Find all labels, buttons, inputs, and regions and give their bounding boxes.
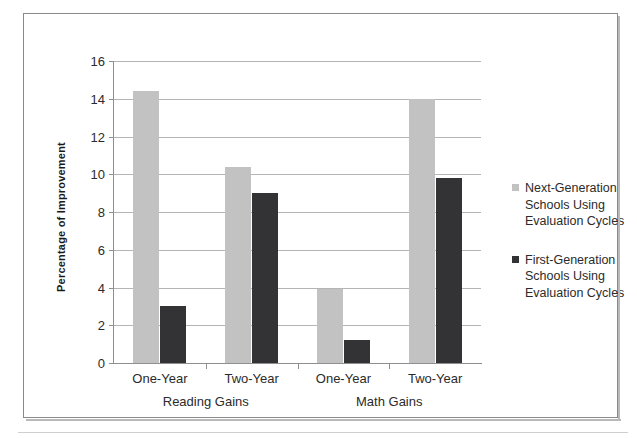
y-axis-title: Percentage of Improvement [50, 114, 72, 319]
page-divider-rule [18, 432, 628, 433]
chart-legend: Next-GenerationSchools UsingEvaluation C… [512, 180, 632, 323]
chart-figure-frame: Percentage of Improvement 0246810121416 … [23, 13, 618, 418]
bar [225, 167, 251, 363]
y-tick-label: 16 [91, 54, 105, 69]
legend-label-line: Evaluation Cycles [525, 213, 632, 230]
y-tick-label: 4 [98, 280, 105, 295]
x-axis-separator [298, 363, 299, 369]
y-tick-mark [109, 137, 114, 138]
y-tick-label: 14 [91, 91, 105, 106]
legend-label-line: Schools Using [525, 197, 632, 214]
legend-label-line: Schools Using [525, 268, 632, 285]
y-axis-title-text: Percentage of Improvement [55, 142, 67, 292]
x-tick-label: Two-Year [224, 371, 278, 386]
x-tick-label: One-Year [316, 371, 371, 386]
bar [160, 306, 186, 363]
legend-swatch-light [512, 184, 519, 191]
y-tick-mark [109, 363, 114, 364]
frame-shadow-right [618, 16, 620, 419]
x-group-label: Reading Gains [163, 394, 249, 409]
legend-entry: Next-GenerationSchools UsingEvaluation C… [512, 180, 632, 230]
legend-label-line: Evaluation Cycles [525, 285, 632, 302]
legend-swatch-dark [512, 256, 519, 263]
bar [409, 99, 435, 363]
frame-shadow-bottom [26, 419, 621, 421]
y-tick-label: 2 [98, 318, 105, 333]
legend-label-line: Next-Generation [525, 180, 632, 197]
bar [252, 193, 278, 363]
bar [133, 91, 159, 363]
bar [436, 178, 462, 363]
legend-label-line: First-Generation [525, 252, 632, 269]
x-axis-separator [206, 363, 207, 369]
x-axis-separator [389, 363, 390, 369]
y-tick-mark [109, 174, 114, 175]
y-tick-mark [109, 61, 114, 62]
y-tick-label: 12 [91, 129, 105, 144]
y-tick-mark [109, 288, 114, 289]
plot-area: 0246810121416 One-YearTwo-YearOne-YearTw… [114, 61, 481, 363]
bar [317, 289, 343, 363]
y-tick-mark [109, 212, 114, 213]
legend-entry: First-GenerationSchools UsingEvaluation … [512, 252, 632, 302]
bar [344, 340, 370, 363]
y-tick-mark [109, 250, 114, 251]
y-tick-label: 10 [91, 167, 105, 182]
gridline [114, 61, 481, 62]
x-tick-label: Two-Year [408, 371, 462, 386]
y-tick-mark [109, 99, 114, 100]
y-tick-label: 8 [98, 205, 105, 220]
x-group-label: Math Gains [356, 394, 422, 409]
y-tick-label: 0 [98, 356, 105, 371]
y-tick-label: 6 [98, 242, 105, 257]
x-tick-label: One-Year [132, 371, 187, 386]
y-tick-mark [109, 325, 114, 326]
